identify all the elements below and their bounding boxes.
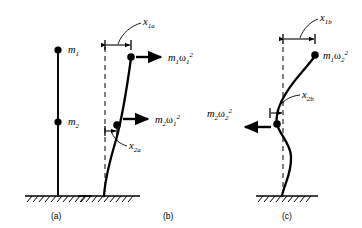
ground-hatch-a: [27, 196, 86, 202]
ground-support-b: [78, 196, 140, 202]
mass-2-dot-a: [54, 118, 61, 125]
ground-hatch-b: [80, 196, 133, 202]
mass-1-dot-a: [54, 46, 61, 53]
mass-2-dot-c: [273, 120, 281, 128]
mass-1-label-a: m1: [68, 44, 79, 58]
x-2a-label: x2a: [128, 140, 141, 154]
x-1b-label: x1b: [319, 12, 332, 26]
force-m2-omega2-label: m2ω22: [207, 107, 233, 122]
mode-shape-figure: m1 m2 (a): [0, 0, 362, 228]
dimension-x2b: [270, 95, 300, 118]
mode-curve-c: [277, 56, 315, 196]
mass-1-dot-b: [127, 53, 135, 61]
x-1a-label: x1a: [142, 16, 155, 30]
panel-c-caption: (c): [282, 211, 292, 221]
ground-hatch-c: [258, 196, 311, 202]
panel-b-caption: (b): [163, 211, 174, 221]
figure-canvas: m1 m2 (a): [0, 0, 362, 228]
panel-a-caption: (a): [51, 211, 62, 221]
panel-b: x1a x2a m1ω12 m2ω12 (b): [78, 16, 194, 221]
panel-c: x1b x2b m2ω22 m1ω22 (c): [207, 12, 349, 221]
mass-1-dot-c: [311, 51, 319, 59]
force-m2-omega1-label: m2ω12: [155, 113, 181, 128]
force-m1-omega2-label: m1ω22: [323, 49, 349, 64]
panel-a: m1 m2 (a): [25, 44, 92, 221]
mass-2-label-a: m2: [68, 116, 80, 130]
dimension-x1a: [105, 23, 141, 50]
force-m1-omega1-label: m1ω12: [168, 51, 194, 66]
ground-support-c: [256, 196, 318, 202]
dimension-x1b: [283, 19, 318, 44]
x-2b-label: x2b: [301, 89, 314, 103]
